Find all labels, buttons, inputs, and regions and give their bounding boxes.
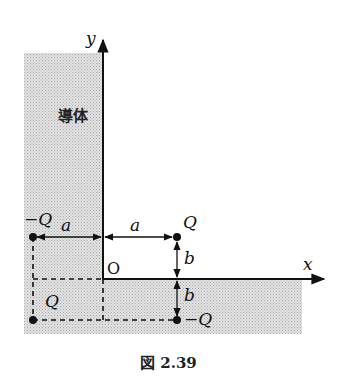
- charge-image-bottom-label: −Q: [184, 309, 212, 329]
- dimension-b-top-label: b: [184, 248, 195, 268]
- charge-image-diag-label: Q: [45, 291, 59, 311]
- x-axis-label: x: [303, 254, 313, 274]
- charge-image-left-label: −Q: [24, 209, 52, 229]
- charge-real: [173, 233, 181, 241]
- charge-image-left: [29, 233, 37, 241]
- charge-image-bottom: [173, 316, 181, 324]
- dimension-a-left-label: a: [61, 215, 71, 235]
- conductor-region: [24, 53, 302, 334]
- origin-label: O: [107, 259, 120, 278]
- dimension-b-bottom-label: b: [184, 285, 195, 305]
- figure-caption: 図 2.39: [140, 354, 197, 372]
- charge-image-diag: [29, 316, 37, 324]
- y-axis-label: y: [85, 28, 96, 48]
- conductor-label: 導体: [58, 107, 89, 125]
- charge-real-label: Q: [183, 212, 197, 232]
- dimension-a-right-label: a: [130, 215, 140, 235]
- figure-canvas: y x O 導体 a a b b Q −Q −Q Q 図 2.39: [0, 0, 339, 390]
